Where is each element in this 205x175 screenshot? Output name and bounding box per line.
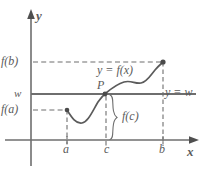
axis-value-label-w: w: [14, 88, 21, 99]
curve-label-y-equals-fx: y = f(x): [97, 64, 133, 76]
point-label-P: P: [97, 79, 104, 91]
y-axis-label: y: [36, 9, 42, 22]
x-axis-label: x: [187, 145, 194, 158]
x-tick-label-a: a: [63, 143, 69, 155]
point-marker-a: [65, 108, 70, 113]
brace-fc-icon: [110, 95, 117, 140]
brace-label-fc: f(c): [122, 110, 139, 122]
point-marker-b: [160, 59, 165, 64]
x-axis-arrow-icon: [189, 136, 199, 144]
x-tick-label-b: b: [159, 143, 165, 155]
point-marker-P: [103, 92, 108, 97]
line-label-y-equals-w: y = w: [165, 86, 192, 98]
figure-canvas: f(b) w f(a) a c b x y P y = f(x) y = w f…: [0, 0, 205, 175]
y-axis-arrow-icon: [27, 9, 35, 19]
x-tick-label-c: c: [104, 143, 109, 155]
axis-value-label-fb: f(b): [1, 55, 18, 67]
axis-value-label-fa: f(a): [1, 103, 18, 115]
